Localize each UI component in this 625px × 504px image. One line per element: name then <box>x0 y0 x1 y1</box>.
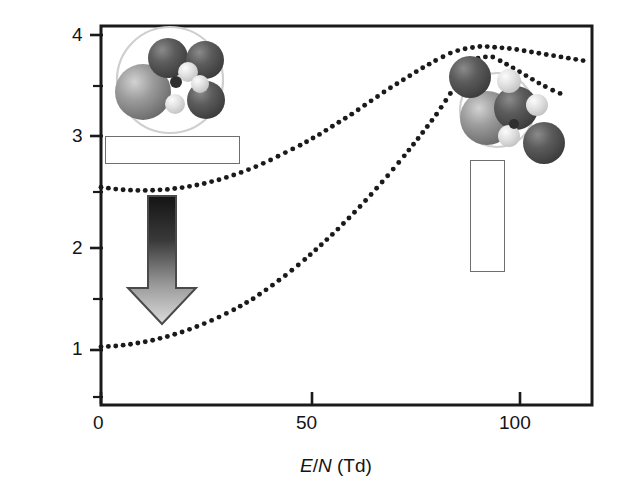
left-caption-box[interactable] <box>105 136 240 164</box>
right-caption-box[interactable] <box>470 160 505 272</box>
down-arrow-icon <box>128 196 196 324</box>
clustered-ion-illustration <box>115 27 225 133</box>
dissociated-ion-illustration <box>449 56 565 164</box>
x-axis-ticks <box>101 392 520 404</box>
figure-root: Mobility (a.u.) E/N (Td) 0 50 100 1 2 3 … <box>0 0 625 504</box>
plot-canvas <box>0 0 625 504</box>
